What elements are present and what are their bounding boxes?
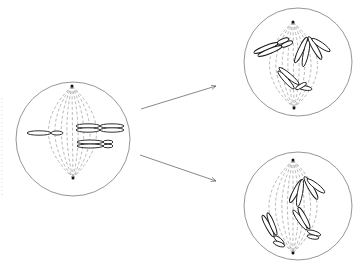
centrosome-pole <box>293 107 296 110</box>
chromatid-arm <box>103 140 113 144</box>
arrow-to-top <box>141 86 216 109</box>
arrows-layer <box>140 86 216 181</box>
daughter-outcome-top <box>244 8 352 116</box>
chromatid-arm <box>27 131 51 135</box>
centrosome-pole <box>292 21 295 24</box>
chromatid-arm <box>51 131 63 135</box>
cells-layer <box>16 8 352 260</box>
spindle-fiber <box>67 86 73 178</box>
chromosome <box>77 140 113 144</box>
centrosome-pole <box>71 85 74 88</box>
daughter-outcome-bottom <box>244 152 352 260</box>
mitosis-diagram <box>0 0 363 276</box>
centrosome-pole <box>72 177 75 180</box>
arrow-to-bottom <box>140 155 216 181</box>
chromatid-arm <box>77 144 103 148</box>
chromatid-arm <box>100 128 124 132</box>
spindle-fiber <box>293 22 294 108</box>
centrosome-pole <box>292 159 295 162</box>
chromosome <box>76 128 124 132</box>
chromatid-arm <box>77 140 103 144</box>
chromosome <box>27 131 63 135</box>
spindle-fiber <box>72 86 73 178</box>
spindle-fiber <box>287 160 293 253</box>
chromatid-arm <box>103 144 113 148</box>
chromatid-arm <box>76 128 100 132</box>
centrosome-pole <box>292 252 295 255</box>
parent-cell <box>16 82 130 196</box>
chromosome <box>77 144 113 148</box>
